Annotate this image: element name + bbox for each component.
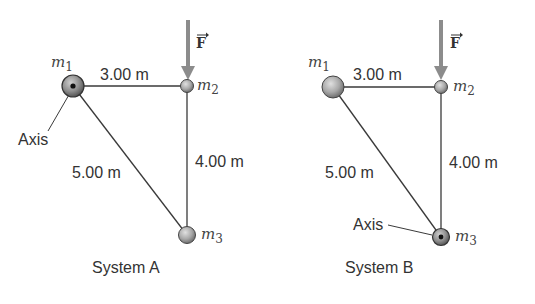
distance-m1-m3: 5.00 m bbox=[325, 164, 374, 181]
label-m2: m2 bbox=[453, 77, 475, 98]
label-m3: m3 bbox=[201, 225, 223, 246]
label-m1: m1 bbox=[308, 53, 330, 74]
force-label: F bbox=[450, 33, 463, 52]
system-a: F m1 m2 m3 3.00 m 4.00 m 5.00 m Axis Sys… bbox=[18, 20, 244, 276]
mass-m2 bbox=[181, 80, 194, 93]
force-label: F bbox=[196, 33, 209, 52]
svg-text:F: F bbox=[196, 35, 206, 51]
distance-m2-m3: 4.00 m bbox=[449, 154, 498, 171]
label-m3: m3 bbox=[455, 227, 477, 248]
distance-m1-m2: 3.00 m bbox=[100, 66, 149, 83]
system-b: F m1 m2 m3 3.00 m 4.00 m 5.00 m Axis Sys… bbox=[308, 20, 498, 276]
mass-m3-with-axis bbox=[433, 229, 450, 246]
rod-m1-m3 bbox=[73, 86, 187, 235]
force-arrow-icon bbox=[181, 20, 195, 80]
label-m1: m1 bbox=[51, 53, 73, 74]
rotational-systems-diagram: F m1 m2 m3 3.00 m 4.00 m 5.00 m Axis Sys… bbox=[0, 0, 535, 304]
axis-pointer-line bbox=[388, 225, 432, 235]
axis-label: Axis bbox=[18, 131, 48, 148]
distance-m1-m2: 3.00 m bbox=[353, 66, 402, 83]
system-a-title: System A bbox=[92, 259, 160, 276]
label-m2: m2 bbox=[197, 76, 219, 97]
mass-m1-with-axis bbox=[62, 75, 84, 97]
svg-text:F: F bbox=[450, 35, 460, 51]
distance-m2-m3: 4.00 m bbox=[195, 153, 244, 170]
axis-label: Axis bbox=[353, 216, 383, 233]
mass-m2 bbox=[435, 81, 448, 94]
distance-m1-m3: 5.00 m bbox=[72, 164, 121, 181]
system-b-title: System B bbox=[345, 259, 413, 276]
mass-m1 bbox=[322, 76, 344, 98]
force-arrow-icon bbox=[434, 20, 448, 80]
mass-m3 bbox=[179, 227, 196, 244]
axis-pointer-line bbox=[48, 93, 70, 131]
rod-m1-m3 bbox=[333, 87, 441, 237]
